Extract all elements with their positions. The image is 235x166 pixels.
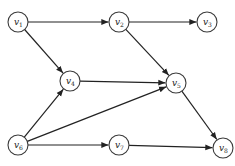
node-v5: v5 xyxy=(166,73,186,93)
edge-v4-v5 xyxy=(80,81,166,83)
node-v3: v3 xyxy=(197,12,217,32)
edge-v7-v8 xyxy=(129,145,213,147)
directed-graph: v1v2v3v4v5v6v7v8 xyxy=(0,0,235,166)
node-v2: v2 xyxy=(109,12,129,32)
edge-v5-v8 xyxy=(182,91,217,139)
node-v7: v7 xyxy=(109,135,129,155)
node-v1: v1 xyxy=(8,12,28,32)
node-v4: v4 xyxy=(60,71,80,91)
node-v6: v6 xyxy=(8,135,28,155)
edge-v6-v5 xyxy=(27,87,166,142)
edges-layer xyxy=(24,22,217,148)
edge-v1-v4 xyxy=(25,30,63,74)
edge-v2-v5 xyxy=(126,29,169,75)
node-v8: v8 xyxy=(213,138,233,158)
